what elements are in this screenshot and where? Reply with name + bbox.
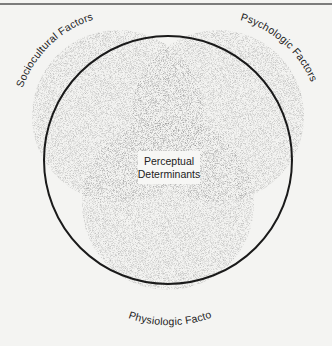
center-label-box: Perceptual Determinants <box>138 151 200 184</box>
center-label-line1: Perceptual <box>144 155 194 168</box>
set-physiologic <box>82 118 254 290</box>
center-label-line2: Determinants <box>138 168 200 181</box>
